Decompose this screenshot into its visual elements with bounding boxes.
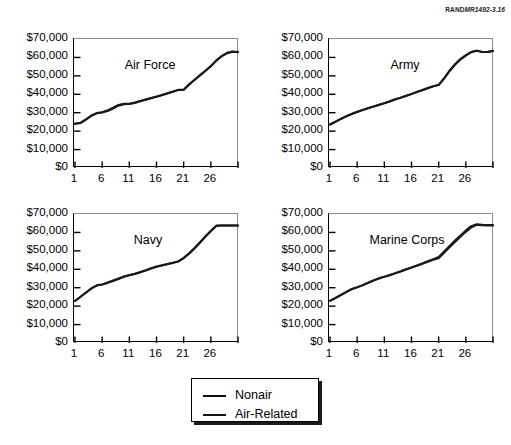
x-axis-tick-label: 26 — [458, 348, 471, 360]
panel-army: $70,000$60,000$50,000$40,000$30,000$20,0… — [255, 18, 505, 191]
y-axis-tick-label: $30,000 — [281, 281, 323, 293]
y-axis-tick-label: $20,000 — [281, 124, 323, 136]
x-axis-tick-label: 21 — [431, 173, 444, 185]
y-axis-tick-label: $40,000 — [281, 88, 323, 100]
y-axis-tick-label: $20,000 — [26, 124, 68, 136]
legend: NonairAir-Related — [191, 378, 319, 422]
x-axis-tick-label: 16 — [404, 348, 417, 360]
y-axis-tick-label: $0 — [55, 161, 68, 173]
y-axis-tick-label: $0 — [55, 336, 68, 348]
y-axis-tick-label: $0 — [310, 161, 323, 173]
y-axis-tick-label: $50,000 — [26, 244, 68, 256]
x-axis-tick-label: 11 — [122, 348, 134, 360]
y-axis-tick-label: $10,000 — [281, 143, 323, 155]
legend-box: NonairAir-Related — [191, 378, 319, 422]
y-axis-labels: $70,000$60,000$50,000$40,000$30,000$20,0… — [0, 38, 68, 167]
panel-title: Marine Corps — [369, 233, 444, 247]
panel-marine-corps: $70,000$60,000$50,000$40,000$30,000$20,0… — [255, 193, 505, 366]
y-axis-tick-label: $50,000 — [281, 244, 323, 256]
panel-title: Navy — [134, 233, 162, 247]
legend-line-swatch — [203, 414, 226, 416]
x-axis-tick-label: 6 — [353, 348, 359, 360]
y-axis-tick-label: $50,000 — [26, 69, 68, 81]
y-axis-tick-label: $70,000 — [26, 207, 68, 219]
source-publisher: RAND — [445, 6, 464, 13]
x-axis-tick-label: 6 — [353, 173, 359, 185]
x-axis-tick-label: 26 — [203, 348, 216, 360]
panel-air-force: $70,000$60,000$50,000$40,000$30,000$20,0… — [0, 18, 250, 191]
y-axis-tick-label: $10,000 — [26, 318, 68, 330]
y-axis-labels: $70,000$60,000$50,000$40,000$30,000$20,0… — [0, 213, 68, 342]
x-axis-tick-label: 21 — [431, 348, 444, 360]
y-axis-tick-label: $40,000 — [26, 88, 68, 100]
panel-title: Air Force — [125, 58, 176, 72]
y-axis-labels: $70,000$60,000$50,000$40,000$30,000$20,0… — [255, 38, 323, 167]
figure-root: RANDMR1492-3.16 $70,000$60,000$50,000$40… — [0, 0, 511, 445]
x-axis-tick-label: 11 — [377, 173, 389, 185]
panel-title: Army — [390, 58, 419, 72]
panel-navy: $70,000$60,000$50,000$40,000$30,000$20,0… — [0, 193, 250, 366]
source-document-id: MR1492-3.16 — [465, 6, 505, 13]
x-axis-tick-label: 26 — [203, 173, 216, 185]
y-axis-tick-label: $20,000 — [26, 299, 68, 311]
y-axis-tick-label: $60,000 — [26, 51, 68, 63]
x-axis-tick-label: 1 — [71, 348, 77, 360]
source-tag: RANDMR1492-3.16 — [445, 6, 505, 13]
legend-label: Nonair — [235, 389, 272, 402]
y-axis-tick-label: $70,000 — [281, 32, 323, 44]
x-axis-tick-label: 21 — [176, 348, 189, 360]
y-axis-tick-label: $40,000 — [281, 263, 323, 275]
x-axis-tick-label: 26 — [458, 173, 471, 185]
legend-label: Air-Related — [235, 408, 298, 421]
y-axis-tick-label: $0 — [310, 336, 323, 348]
x-axis-tick-label: 11 — [377, 348, 389, 360]
legend-entry-air-related: Air-Related — [203, 408, 298, 421]
y-axis-tick-label: $20,000 — [281, 299, 323, 311]
x-axis-tick-label: 16 — [149, 173, 162, 185]
y-axis-tick-label: $60,000 — [281, 51, 323, 63]
y-axis-tick-label: $70,000 — [281, 207, 323, 219]
y-axis-tick-label: $50,000 — [281, 69, 323, 81]
x-axis-tick-label: 11 — [122, 173, 134, 185]
y-axis-tick-label: $30,000 — [26, 281, 68, 293]
x-axis-tick-label: 1 — [71, 173, 77, 185]
legend-line-swatch — [203, 395, 226, 397]
x-axis-tick-label: 1 — [326, 173, 332, 185]
x-axis-tick-label: 6 — [98, 348, 104, 360]
x-axis-tick-label: 16 — [404, 173, 417, 185]
y-axis-tick-label: $60,000 — [26, 226, 68, 238]
y-axis-tick-label: $10,000 — [281, 318, 323, 330]
y-axis-tick-label: $30,000 — [281, 106, 323, 118]
x-axis-tick-label: 21 — [176, 173, 189, 185]
y-axis-tick-label: $40,000 — [26, 263, 68, 275]
y-axis-tick-label: $60,000 — [281, 226, 323, 238]
y-axis-tick-label: $30,000 — [26, 106, 68, 118]
x-axis-tick-label: 16 — [149, 348, 162, 360]
y-axis-labels: $70,000$60,000$50,000$40,000$30,000$20,0… — [255, 213, 323, 342]
y-axis-tick-label: $70,000 — [26, 32, 68, 44]
x-axis-tick-label: 6 — [98, 173, 104, 185]
x-axis-tick-label: 1 — [326, 348, 332, 360]
y-axis-tick-label: $10,000 — [26, 143, 68, 155]
legend-entry-nonair: Nonair — [203, 389, 272, 402]
